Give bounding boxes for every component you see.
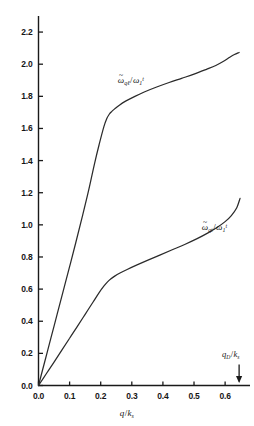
x-tick-label-6: 0.6: [212, 391, 238, 401]
x-tick-label-3: 0.3: [119, 391, 145, 401]
y-tick-label-8: 1.6: [7, 123, 33, 133]
y-tick-label-10: 2.0: [7, 59, 33, 69]
y-tick-label-2: 0.4: [7, 316, 33, 326]
x-tick-label-2: 0.2: [88, 391, 114, 401]
tilde-accent: ~: [119, 72, 123, 80]
debye-cutoff-arrow-icon: [236, 365, 242, 384]
x-axis-title: q/ks: [120, 409, 134, 420]
arrow-head: [236, 376, 242, 383]
y-tick-label-5: 1.0: [7, 220, 33, 230]
tilde-accent: ~: [203, 219, 207, 227]
superscript-t: t: [225, 223, 227, 229]
y-tick-label-3: 0.6: [7, 284, 33, 294]
x-tick-label-4: 0.4: [150, 391, 176, 401]
y-tick-label-4: 0.8: [7, 252, 33, 262]
x-tick-label-0: 0.0: [26, 391, 52, 401]
y-tick-label-6: 1.2: [7, 188, 33, 198]
curve-longitudinal: [39, 52, 240, 385]
y-tick-label-1: 0.2: [7, 348, 33, 358]
subscript-s: s: [132, 412, 134, 418]
superscript-t: t: [142, 76, 144, 82]
figure-phonon-dispersion: 0.00.20.40.60.81.01.21.41.61.82.02.2 0.0…: [0, 0, 254, 426]
curve-label-transverse: ~ωqt/ω1t: [202, 223, 227, 234]
y-tick-label-0: 0.0: [7, 381, 33, 391]
y-tick-label-7: 1.4: [7, 156, 33, 166]
subscript-s: s: [237, 353, 239, 359]
curve-label-longitudinal: ~ωqℓ/ω1t: [118, 76, 144, 87]
subscript-ql: qℓ: [124, 80, 129, 86]
y-tick-label-11: 2.2: [7, 27, 33, 37]
x-tick-label-1: 0.1: [57, 391, 83, 401]
x-tick-label-5: 0.5: [181, 391, 207, 401]
plot-canvas: [0, 0, 254, 426]
y-tick-label-9: 1.8: [7, 91, 33, 101]
debye-cutoff-label: qD/ks: [222, 350, 239, 360]
